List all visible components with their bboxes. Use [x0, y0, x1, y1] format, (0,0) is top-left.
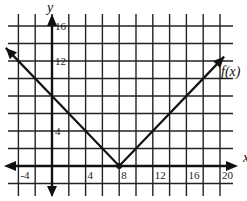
x-tick-label: 12	[155, 169, 166, 181]
x-tick-label: 8	[121, 169, 127, 181]
y-axis-down-arrow-icon	[47, 186, 57, 197]
x-axis-left-arrow-icon	[4, 161, 16, 171]
x-tick-label: 4	[88, 169, 94, 181]
x-axis-label: x	[242, 150, 247, 165]
y-axis-label: y	[45, 0, 54, 15]
y-tick-label: 16	[55, 20, 67, 32]
function-label: f(x)	[221, 64, 241, 80]
vertex-point	[116, 163, 122, 169]
x-tick-label: -4	[20, 169, 30, 181]
x-tick-label: 20	[222, 169, 234, 181]
y-tick-label: 12	[55, 55, 66, 67]
y-tick-label: 4	[55, 125, 61, 137]
x-tick-label: 16	[188, 169, 200, 181]
function-line	[6, 48, 224, 169]
graph-figure: -44812162041216 x y f(x)	[0, 0, 247, 201]
